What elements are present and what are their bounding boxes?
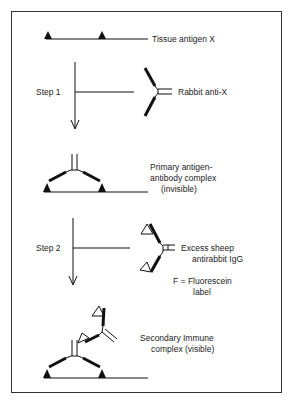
primary-complex-icon	[43, 154, 148, 192]
label-primary-1: Primary antigen-	[150, 162, 212, 172]
antigen-triangle-icon	[98, 31, 106, 39]
label-secondary-1: Secondary Immune	[140, 333, 214, 343]
label-step2: Step 2	[36, 243, 61, 253]
label-step1: Step 1	[36, 87, 61, 97]
antigen-triangle-icon	[44, 31, 52, 39]
label-sheep-1: Excess sheep	[181, 243, 234, 253]
label-primary-2: antibody complex	[150, 173, 216, 183]
tissue-antigen-x	[44, 31, 148, 39]
label-tissue-antigen: Tissue antigen X	[152, 34, 215, 44]
label-fluorescein-2: label	[193, 287, 211, 297]
label-primary-3: (invisible)	[161, 184, 197, 194]
secondary-complex-icon	[43, 306, 148, 378]
step1-arrow	[71, 62, 134, 129]
step2-arrow	[69, 218, 130, 285]
label-sheep-2: antirabbit IgG	[192, 254, 243, 264]
label-fluorescein-1: F = Fluorescein	[173, 276, 232, 286]
sheep-antirabbit-igg-icon	[140, 224, 175, 272]
rabbit-anti-x-antibody-icon	[145, 68, 172, 116]
label-secondary-2: complex (visible)	[151, 344, 214, 354]
immunofluorescence-diagram	[0, 0, 293, 405]
label-rabbit-anti-x: Rabbit anti-X	[178, 87, 227, 97]
